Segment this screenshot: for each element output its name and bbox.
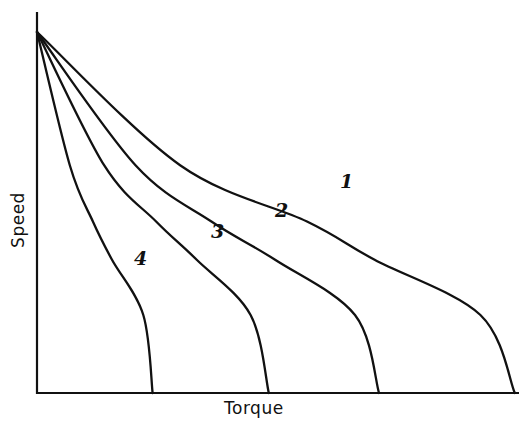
x-axis-label: Torque: [224, 398, 284, 418]
curve-label-1: 1: [340, 170, 353, 192]
curve-label-2: 2: [275, 199, 288, 221]
curve-label-3: 3: [211, 220, 224, 242]
curve-label-4: 4: [134, 247, 147, 269]
curve-3: [37, 32, 269, 393]
speed-torque-chart: [0, 0, 520, 426]
curve-4: [37, 32, 153, 393]
y-axis-label: Speed: [8, 190, 28, 250]
